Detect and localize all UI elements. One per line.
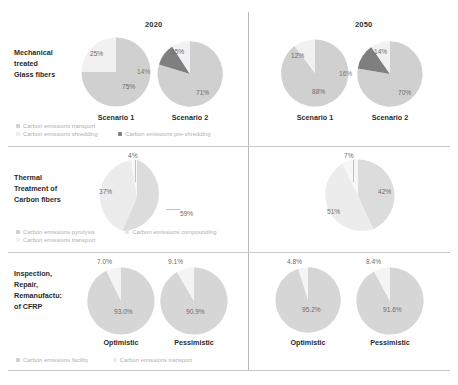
value-label: 25% [90, 50, 103, 57]
value-label: 95.2% [302, 306, 321, 313]
vertical-divider [248, 12, 249, 370]
value-label: 15% [171, 48, 184, 55]
value-label: 4.8% [287, 258, 302, 265]
pie-caption-pessimistic: Pessimistic [370, 338, 410, 347]
pie-svg [274, 266, 342, 334]
pie-insp-2020-pes [159, 266, 229, 340]
legend-label: Carbon emissions transport [23, 236, 95, 244]
legend-item: Carbon emissions transport [113, 356, 192, 364]
value-label: 70% [398, 89, 411, 96]
legend-inspection: Carbon emissions facility Carbon emissio… [16, 356, 199, 364]
pie-svg [98, 158, 176, 236]
legend-swatch-icon [16, 238, 20, 242]
legend-item: Carbon emissions transport [16, 236, 95, 244]
pie-caption-optimistic: Optimistic [290, 338, 325, 347]
legend-label: Carbon emissions transport [23, 122, 95, 130]
pie-svg [159, 266, 229, 336]
row-label-inspection: Inspection,Repair,Remanufactu:of CFRP [14, 268, 86, 312]
legend-thermal: Carbon emissions pyrolysis Carbon emissi… [16, 228, 224, 244]
legend-item: Carbon emissions pyrolysis [16, 228, 95, 236]
pie-thermal-2050 [320, 158, 396, 238]
value-label: 91.6% [383, 306, 402, 313]
value-label: 8.4% [366, 258, 381, 265]
value-label: 59% [180, 210, 193, 217]
value-label: 37% [99, 188, 112, 195]
pie-svg [156, 40, 224, 108]
pie-caption-scenario1: Scenario 1 [297, 113, 333, 122]
value-label: 90.9% [186, 308, 205, 315]
pie-insp-2050-pes [355, 266, 425, 340]
leader-line [166, 209, 180, 210]
value-label: 71% [196, 89, 209, 96]
value-label: 9.1% [168, 258, 183, 265]
legend-label: Carbon emissions compounding [132, 228, 216, 236]
legend-swatch-icon [125, 230, 129, 234]
pie-mech-2050-s2 [356, 40, 424, 112]
legend-label: Carbon emissions transport [120, 356, 192, 364]
pie-insp-2020-opt [86, 266, 156, 340]
leader-line [135, 160, 136, 182]
legend-label: Carbon emissions facility [23, 356, 88, 364]
column-header-2020: 2020 [145, 20, 163, 29]
pie-caption-scenario2: Scenario 2 [172, 113, 208, 122]
horizontal-divider-3 [8, 370, 450, 371]
pie-svg [355, 266, 425, 336]
horizontal-divider-1 [8, 146, 450, 147]
legend-label: Carbon emissions pre-shredding [125, 130, 210, 138]
row-label-thermal: ThermalTreatment ofCarbon fibers [14, 172, 86, 205]
value-label: 93.0% [114, 308, 133, 315]
legend-swatch-icon [16, 230, 20, 234]
value-label: 51% [327, 208, 340, 215]
pie-caption-pessimistic: Pessimistic [174, 338, 214, 347]
column-header-2050: 2050 [355, 20, 373, 29]
value-label: 7.0% [97, 258, 112, 265]
value-label: 7% [344, 152, 354, 159]
legend-swatch-icon [16, 124, 20, 128]
pie-svg [320, 158, 396, 234]
pie-svg [356, 40, 424, 108]
leader-line [353, 160, 354, 182]
value-label: 16% [339, 70, 352, 77]
horizontal-divider-2 [8, 252, 450, 253]
value-label: 42% [378, 188, 391, 195]
value-label: 4% [128, 152, 138, 159]
legend-mechanical: Carbon emissions transport Carbon emissi… [16, 122, 217, 138]
legend-label: Carbon emissions pyrolysis [23, 228, 95, 236]
legend-swatch-icon [16, 358, 20, 362]
legend-item: Carbon emissions pre-shredding [118, 130, 210, 138]
legend-item: Carbon emissions shredding [16, 130, 98, 138]
pie-svg [86, 266, 156, 336]
legend-item: Carbon emissions transport [16, 122, 95, 130]
value-label: 75% [122, 83, 135, 90]
figure-pie-matrix: 2020 2050 MechanicaltreatedGlass fibers … [0, 0, 458, 385]
legend-swatch-icon [118, 132, 122, 136]
legend-swatch-icon [113, 358, 117, 362]
legend-item: Carbon emissions facility [16, 356, 88, 364]
value-label: 88% [312, 88, 325, 95]
pie-mech-2020-s2 [156, 40, 224, 112]
value-label: 14% [374, 48, 387, 55]
pie-caption-scenario2: Scenario 2 [372, 113, 408, 122]
value-label: 12% [291, 52, 304, 59]
pie-caption-scenario1: Scenario 1 [98, 113, 134, 122]
pie-insp-2050-opt [274, 266, 342, 338]
legend-item: Carbon emissions compounding [125, 228, 216, 236]
legend-label: Carbon emissions shredding [23, 130, 98, 138]
row-label-mechanical: MechanicaltreatedGlass fibers [14, 47, 86, 80]
pie-caption-optimistic: Optimistic [103, 338, 138, 347]
value-label: 14% [137, 68, 150, 75]
legend-swatch-icon [16, 132, 20, 136]
